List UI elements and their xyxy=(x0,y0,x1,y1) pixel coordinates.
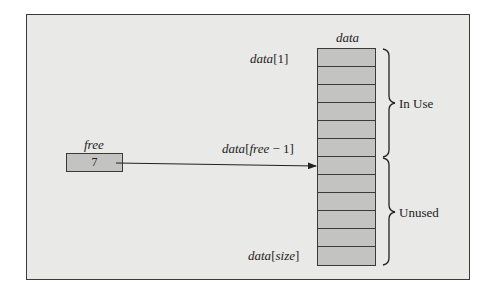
region-label-in-use: In Use xyxy=(399,97,433,110)
region-label-unused: Unused xyxy=(399,206,439,219)
in-use-brace-icon xyxy=(383,49,395,157)
unused-brace-icon xyxy=(383,158,395,265)
free-pointer-arrow-icon xyxy=(116,163,316,166)
connectors xyxy=(0,0,495,295)
